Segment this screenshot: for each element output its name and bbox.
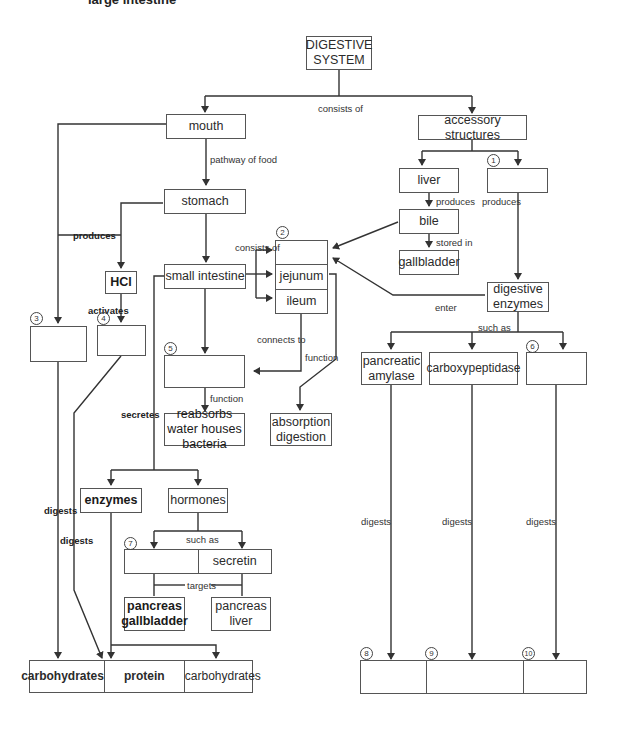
node-carboxypeptidase: carboxypeptidase	[429, 352, 518, 385]
label-function-ileum: function	[305, 352, 338, 363]
label-function-5: function	[210, 393, 243, 404]
node-bottom-left-row: carbohydrates protein carbohydrates	[29, 660, 253, 693]
node-small-intestine-parts: jejunum ileum	[275, 240, 328, 314]
marker-9: 9	[425, 647, 438, 660]
node-stomach: stomach	[164, 189, 246, 214]
label-secretes: secretes	[121, 409, 160, 420]
label-enter: enter	[435, 302, 457, 313]
label-produces-left: produces	[73, 230, 116, 241]
node-blank-4	[97, 325, 146, 356]
marker-4: 4	[97, 312, 110, 325]
cell-protein: protein	[104, 661, 184, 692]
label-consists-of-si: consists of	[235, 242, 280, 253]
node-bile: bile	[399, 209, 459, 234]
node-accessory-structures: accessory structures	[418, 115, 527, 140]
node-blank-3	[30, 326, 87, 362]
node-blank-5	[164, 355, 245, 388]
cell-carbohydrates-1: carbohydrates	[21, 661, 104, 692]
label-digests-carboxy: digests	[442, 516, 472, 527]
cut-off-heading: large intestine	[88, 0, 176, 7]
label-pathway-of-food: pathway of food	[210, 154, 277, 165]
hormone-secretin: secretin	[198, 550, 272, 573]
node-hormones: hormones	[168, 488, 228, 513]
label-targets: targets	[187, 580, 216, 591]
marker-5: 5	[164, 342, 177, 355]
si-part-blank-2	[276, 241, 327, 264]
node-liver: liver	[399, 168, 459, 193]
marker-2: 2	[276, 226, 289, 239]
marker-1: 1	[487, 154, 500, 167]
label-digests-amylase: digests	[361, 516, 391, 527]
cell-blank-9	[426, 661, 523, 693]
hormone-blank-7	[125, 550, 198, 573]
node-blank-1	[487, 168, 548, 193]
node-pancreas-gallbladder: pancreas gallbladder	[124, 597, 185, 631]
concept-map: large intestine	[0, 0, 620, 736]
node-small-intestine: small intestine	[164, 264, 246, 289]
label-connects-to: connects to	[257, 334, 306, 345]
label-such-as-enzymes: such as	[478, 322, 511, 333]
label-consists-of: consists of	[318, 103, 363, 114]
marker-3: 3	[30, 312, 43, 325]
si-part-ileum: ileum	[276, 289, 327, 313]
node-pancreatic-amylase: pancreatic amylase	[361, 352, 422, 385]
node-blank-6	[526, 352, 587, 385]
si-part-jejunum: jejunum	[276, 264, 327, 288]
label-digests-4: digests	[60, 535, 93, 546]
marker-8: 8	[360, 647, 373, 660]
node-digestive-enzymes: digestive enzymes	[487, 282, 549, 312]
marker-7: 7	[124, 537, 137, 550]
label-produces-blank1: produces	[482, 196, 521, 207]
node-pancreas-liver: pancreas liver	[211, 597, 271, 631]
label-such-as-hormones: such as	[186, 534, 219, 545]
node-enzymes: enzymes	[80, 488, 142, 513]
marker-10: 10	[522, 647, 535, 660]
cell-blank-8	[361, 661, 426, 693]
label-produces-liver: produces	[436, 196, 475, 207]
label-stored-in: stored in	[436, 237, 472, 248]
label-digests-3: digests	[44, 505, 77, 516]
label-digests-6: digests	[526, 516, 556, 527]
node-reabsorbs: reabsorbs water houses bacteria	[164, 413, 245, 446]
cell-carbohydrates-2: carbohydrates	[184, 661, 261, 692]
node-hormone-pair: secretin	[124, 549, 272, 574]
node-absorption-digestion: absorption digestion	[270, 413, 332, 446]
node-hcl: HCl	[105, 271, 137, 294]
node-mouth: mouth	[166, 114, 246, 139]
marker-6: 6	[526, 340, 539, 353]
node-bottom-right-row	[360, 660, 587, 694]
node-digestive-system: DIGESTIVE SYSTEM	[306, 36, 372, 70]
node-gallbladder: gallbladder	[399, 250, 459, 275]
cell-blank-10	[523, 661, 586, 693]
